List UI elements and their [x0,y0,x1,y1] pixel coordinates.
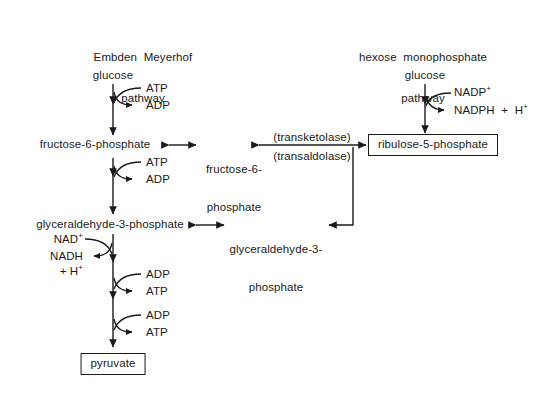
cofactor-curve-atp-adp-2 [114,162,141,177]
cofactor-nadh-proton-text: + H [60,265,79,277]
hmp-title-line1: hexose monophosphate [359,51,487,65]
cofactor-nad: NAD+ [54,233,83,246]
cofactor-nadph-charge: + [523,102,528,111]
cofactor-adp-2: ADP [146,173,170,186]
enzyme-transaldolase-label: (transaldolase) [273,150,351,163]
cofactor-nadp-text: NADP [454,86,486,98]
cofactor-atp-2: ATP [146,156,168,169]
cofactor-nad-text: NAD [54,233,79,245]
cofactor-nadp-charge: + [486,84,491,93]
cofactor-arrow-nadh [94,243,112,256]
bridge-f6p-line2: phosphate [206,201,262,214]
metabolite-glucose-emp: glucose [93,69,133,82]
cofactor-nad-charge: + [78,231,83,240]
cofactor-curve-nad [85,239,112,254]
cofactor-atp-1: ATP [146,82,168,95]
cofactor-nadp: NADP+ [454,86,491,99]
cofactor-arrow-atp-3 [114,278,132,291]
cofactor-nadph-text: NADPH + H [454,104,523,116]
bridge-f6p-line1: fructose-6- [206,163,262,176]
metabolite-pyruvate-box: pyruvate [81,353,146,375]
cofactor-arrow-adp-2 [114,166,132,179]
cofactor-nadh-proton-charge: + [78,263,83,272]
metabolite-ribulose-5-phosphate-box: ribulose-5-phosphate [368,134,498,156]
cofactor-nadh-proton: + H+ [60,265,83,278]
metabolite-glyceraldehyde-3-phosphate-emp: glyceraldehyde-3-phosphate [36,218,184,231]
cofactor-atp-4: ATP [146,326,168,339]
bridge-gap-line2: phosphate [229,281,322,294]
pathway-diagram: Embden Meyerhof pathway hexose monophosp… [0,0,542,401]
metabolite-glucose-hmp: glucose [405,69,445,82]
cofactor-adp-1: ADP [146,99,170,112]
cofactor-curve-adp-atp-4 [114,315,141,330]
cofactor-adp-3: ADP [146,268,170,281]
cofactor-curve-adp-atp-3 [114,274,141,289]
bridge-gap-line1: glyceraldehyde-3- [229,243,322,256]
emp-title-line2: pathway [94,92,193,106]
cofactor-nadh: NADH [50,250,83,263]
metabolite-glyceraldehyde-3-phosphate-bridge: glyceraldehyde-3- phosphate [229,218,322,318]
cofactor-adp-4: ADP [146,309,170,322]
metabolite-fructose-6-phosphate-emp: fructose-6-phosphate [40,138,151,151]
cofactor-nadph: NADPH + H+ [454,104,528,117]
cofactor-arrow-atp-4 [114,319,132,332]
emp-title-line1: Embden Meyerhof [94,51,193,65]
enzyme-transketolase-label: (transketolase) [273,131,351,144]
cofactor-atp-3: ATP [146,285,168,298]
